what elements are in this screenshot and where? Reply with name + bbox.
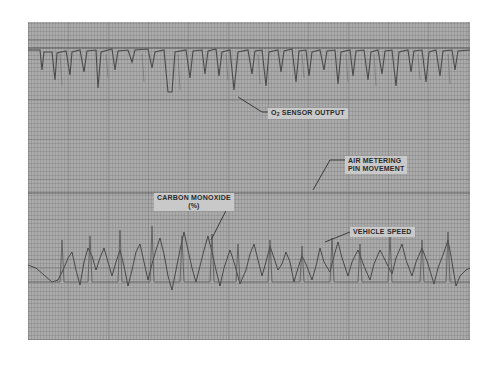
carbon-monoxide-label: CARBON MONOXIDE (%) [154,193,234,211]
carbon-monoxide-line1: CARBON MONOXIDE [157,194,231,202]
chart-traces [0,0,496,366]
air-metering-line2: PIN MOVEMENT [348,165,404,173]
o2-label-text: SENSOR OUTPUT [280,109,345,116]
air-metering-pin-label: AIR METERING PIN MOVEMENT [345,156,407,174]
carbon-monoxide-line2: (%) [157,202,231,210]
air-metering-line1: AIR METERING [348,157,404,165]
vehicle-speed-label: VEHICLE SPEED [350,227,415,237]
o2-sensor-output-label: O2 SENSOR OUTPUT [268,108,348,119]
vehicle-speed-leader-line [325,232,350,242]
vehicle-speed-text: VEHICLE SPEED [353,228,412,235]
air-metering-leader-line [313,160,346,190]
o2-sensor-trace [28,49,470,92]
vehicle-speed-trace [28,232,470,290]
